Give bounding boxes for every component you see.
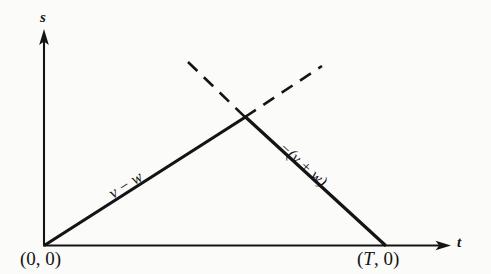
origin-separator: , bbox=[36, 248, 46, 269]
origin-point-label: (0, 0) bbox=[20, 249, 61, 268]
descending-dashed-extension bbox=[188, 62, 245, 117]
end-close-paren: ) bbox=[393, 248, 399, 269]
end-separator: , bbox=[374, 248, 384, 269]
origin-x-value: 0 bbox=[26, 248, 36, 269]
end-x-value: T bbox=[363, 248, 374, 269]
ascending-dashed-extension bbox=[245, 66, 322, 117]
s-axis-label: s bbox=[40, 10, 46, 25]
displacement-time-diagram: s t (0, 0) (T, 0) v − w −(v + w) bbox=[0, 0, 491, 274]
diagram-canvas bbox=[0, 0, 491, 274]
t-axis-label: t bbox=[457, 235, 461, 250]
end-y-value: 0 bbox=[383, 248, 393, 269]
origin-y-value: 0 bbox=[45, 248, 55, 269]
end-point-label: (T, 0) bbox=[357, 249, 399, 268]
origin-close-paren: ) bbox=[55, 248, 61, 269]
